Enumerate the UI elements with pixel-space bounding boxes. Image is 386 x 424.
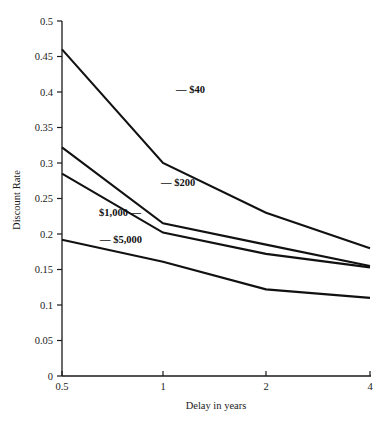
y-tick-label: 0.35 [35, 122, 53, 133]
series-label-5000: — $5,000 [99, 234, 142, 245]
y-tick-label: 0.5 [40, 16, 53, 27]
series-lines-group [62, 49, 370, 298]
series-label-1000: $1,000 — [99, 207, 142, 218]
discount-rate-chart: 00.050.10.150.20.250.30.350.40.450.5 0.5… [0, 0, 386, 424]
x-tick-label: 2 [263, 381, 268, 392]
x-axis-title: Delay in years [186, 400, 247, 411]
y-tick-label: 0.25 [35, 193, 53, 204]
x-axis-ticks [62, 371, 370, 376]
y-axis-ticks [57, 21, 62, 376]
series-line-5000 [62, 240, 370, 298]
chart-canvas: 00.050.10.150.20.250.30.350.40.450.5 0.5… [0, 0, 386, 424]
y-tick-label: 0.15 [35, 264, 53, 275]
series-line-40 [62, 49, 370, 248]
y-tick-label: 0.2 [40, 229, 53, 240]
y-tick-label: 0 [48, 371, 53, 382]
y-tick-label: 0.05 [35, 335, 53, 346]
x-axis-tick-labels: 0.5124 [55, 381, 373, 392]
x-tick-label: 1 [160, 381, 165, 392]
series-label-200: — $200 [160, 177, 195, 188]
y-axis-title: Discount Rate [11, 170, 22, 230]
y-tick-label: 0.45 [35, 51, 53, 62]
y-tick-label: 0.1 [40, 300, 53, 311]
y-tick-label: 0.3 [40, 158, 53, 169]
x-tick-label: 0.5 [55, 381, 68, 392]
series-label-40: — $40 [175, 84, 205, 95]
y-axis-tick-labels: 00.050.10.150.20.250.30.350.40.450.5 [35, 16, 54, 382]
x-tick-label: 4 [367, 381, 373, 392]
y-tick-label: 0.4 [40, 87, 54, 98]
